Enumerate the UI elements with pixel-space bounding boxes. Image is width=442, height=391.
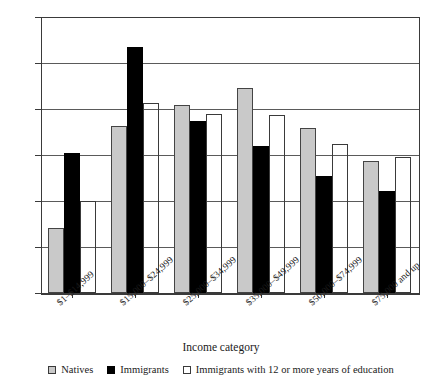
legend-item-immigrants[interactable]: Immigrants xyxy=(107,364,168,376)
bar-group xyxy=(230,17,293,293)
bar-natives xyxy=(237,88,253,293)
bar-natives xyxy=(363,161,379,293)
bar-chart-figure: 0.05.010.015.020.025.030.0 $1–$14,999$15… xyxy=(0,0,442,391)
bar-natives xyxy=(300,128,316,293)
x-axis-title: Income category xyxy=(0,341,442,354)
bar-group xyxy=(167,17,230,293)
legend-swatch-immigrants-icon xyxy=(107,366,115,374)
bar-group xyxy=(104,17,167,293)
bar-immigrants xyxy=(127,47,143,293)
bar-group xyxy=(355,17,418,293)
chart-legend: NativesImmigrantsImmigrants with 12 or m… xyxy=(0,364,442,376)
bar-immigrants xyxy=(64,153,80,293)
bar-group xyxy=(292,17,355,293)
legend-swatch-immigrants-education-icon xyxy=(183,366,191,374)
bar-natives xyxy=(48,228,64,293)
bar-immigrants xyxy=(316,176,332,293)
legend-label: Immigrants xyxy=(120,364,168,376)
bar-group xyxy=(41,17,104,293)
legend-label: Natives xyxy=(61,364,93,376)
legend-item-natives[interactable]: Natives xyxy=(48,364,93,376)
bar-immigrants xyxy=(253,146,269,293)
legend-label: Immigrants with 12 or more years of educ… xyxy=(196,364,394,376)
bar-immigrants xyxy=(190,121,206,293)
bar-natives xyxy=(111,126,127,293)
bars-layer xyxy=(41,17,418,293)
bar-natives xyxy=(174,105,190,293)
bar-immigrants xyxy=(379,191,395,293)
legend-swatch-natives-icon xyxy=(48,366,56,374)
legend-item-immigrants-education[interactable]: Immigrants with 12 or more years of educ… xyxy=(183,364,394,376)
gridline xyxy=(42,293,419,294)
